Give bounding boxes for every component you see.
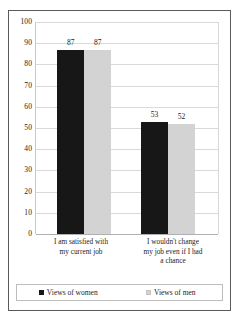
gridline <box>36 22 218 23</box>
x-category-line: my current job <box>35 247 127 257</box>
legend-item-men[interactable]: Views of men <box>120 289 223 297</box>
bar-men-satisfied <box>84 50 111 234</box>
x-category-line: I am satisfied with <box>35 237 127 247</box>
x-category-line: a chance <box>127 256 219 266</box>
legend-swatch-icon <box>146 290 151 295</box>
x-category-label-1: I am satisfied with my current job <box>35 237 127 256</box>
chart-legend: Views of women Views of men <box>16 284 223 301</box>
x-axis-baseline <box>36 234 218 235</box>
data-label: 87 <box>84 39 111 47</box>
bar-women-wouldnt-change <box>141 122 168 234</box>
y-tick-label: 70 <box>8 82 32 90</box>
legend-swatch-icon <box>39 290 44 295</box>
y-tick-label: 0 <box>8 230 32 238</box>
y-tick-label: 40 <box>8 145 32 153</box>
x-category-line: my job even if I had <box>127 247 219 257</box>
y-tick-label: 80 <box>8 61 32 69</box>
y-axis: 100 90 80 70 60 50 40 30 20 10 0 <box>9 22 32 234</box>
y-tick-label: 50 <box>8 124 32 132</box>
y-tick-label: 100 <box>8 18 32 26</box>
legend-item-women[interactable]: Views of women <box>17 289 120 297</box>
data-label: 53 <box>141 111 168 119</box>
plot-region: 100 90 80 70 60 50 40 30 20 10 0 <box>9 11 230 310</box>
y-tick-label: 30 <box>8 167 32 175</box>
legend-label: Views of men <box>154 289 196 297</box>
data-label: 87 <box>57 39 84 47</box>
y-tick-label: 20 <box>8 188 32 196</box>
y-tick-label: 10 <box>8 209 32 217</box>
x-category-line: I wouldn't change <box>127 237 219 247</box>
chart-figure: 100 90 80 70 60 50 40 30 20 10 0 <box>8 10 231 311</box>
legend-label: Views of women <box>47 289 98 297</box>
bar-men-wouldnt-change <box>168 124 195 234</box>
data-label: 52 <box>168 113 195 121</box>
y-tick-label: 90 <box>8 39 32 47</box>
bar-women-satisfied <box>57 50 84 234</box>
plot-area: 87 87 53 52 <box>35 22 219 234</box>
x-category-label-2: I wouldn't change my job even if I had a… <box>127 237 219 266</box>
y-tick-label: 60 <box>8 103 32 111</box>
